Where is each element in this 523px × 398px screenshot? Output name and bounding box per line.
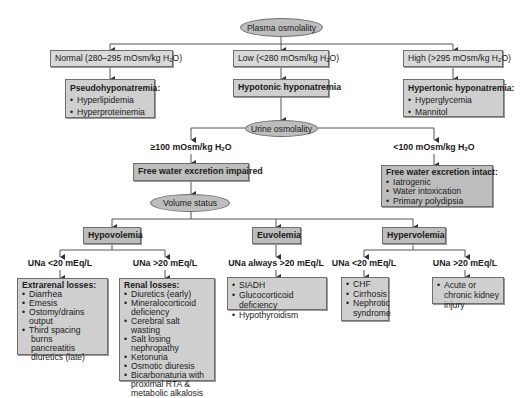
hypervolemia-low-una-box: CHF Cirrhosis Nephrotic syndrome — [341, 277, 389, 321]
extrarenal-losses-box: Extrarenal losses: Diarrhea Emesis Ostom… — [17, 278, 108, 355]
free-water-impaired-box: Free water excretion impaired — [133, 163, 249, 181]
list-item: Salt losing nephropathy — [124, 335, 210, 353]
list-item: Primary polydipsia — [386, 197, 488, 207]
hypertonic-title: Hypertonic hyponatremia: — [408, 82, 499, 94]
list-item: Ostomy/drains output — [22, 308, 103, 326]
list-item: Hyperproteinemia — [70, 106, 150, 118]
list-item: Nephrotic syndrome — [346, 299, 384, 318]
urine-high-label: ≥100 mOsm/kg H2O — [150, 142, 231, 152]
list-item: Cerebral salt wasting — [124, 317, 210, 335]
list-item: Hyperlipidemia — [70, 94, 150, 106]
urine-low-label: <100 mOsm/kg H2O — [393, 142, 474, 152]
list-subitem: diuretics (late) — [31, 353, 103, 362]
hypovolemia-box: Hypovolemia — [83, 227, 141, 244]
normal-osmolality-box: Normal (280–295 mOsm/kg H2O) — [50, 50, 173, 67]
list-item: Glucocorticoid deficiency — [232, 290, 322, 310]
hypovolemia-una-high-label: UNa >20 mEq/L — [133, 258, 197, 268]
hypervolemia-box: Hypervolemia — [382, 227, 446, 244]
urine-osmolality-node: Urine osmolality — [245, 120, 318, 137]
hypovolemia-una-low-label: UNa <20 mEq/L — [28, 258, 92, 268]
euvolemia-causes-box: SIADH Glucocorticoid deficiency Hypothyr… — [227, 277, 327, 310]
list-item: Mineralocorticoid deficiency — [124, 299, 210, 317]
low-osmolality-box: Low (<280 mOsm/kg H2O) — [233, 50, 329, 67]
hypotonic-hyponatremia-box: Hypotonic hyponatremia — [233, 79, 329, 97]
list-item: SIADH — [232, 280, 322, 290]
list-item: Mannitol — [408, 106, 499, 118]
pseudohyponatremia-title: Pseudohyponatremia: — [70, 82, 150, 94]
renal-losses-box: Renal losses: Diuretics (early) Mineralo… — [119, 278, 215, 381]
euvolemia-una-label: UNa always >20 mEq/L — [228, 258, 324, 268]
high-osmolality-box: High (>295 mOsm/kg H2O) — [403, 50, 503, 67]
list-item: Hyperglycemia — [408, 94, 499, 106]
list-item: Hypothyroidism — [232, 310, 322, 320]
pseudohyponatremia-box: Pseudohyponatremia: Hyperlipidemia Hyper… — [65, 79, 155, 118]
hypervolemia-una-low-label: UNa <20 mEq/L — [332, 258, 396, 268]
plasma-osmolality-node: Plasma osmolality — [240, 18, 323, 37]
list-item: Third spacing — [22, 326, 103, 335]
hypertonic-hyponatremia-box: Hypertonic hyponatremia: Hyperglycemia M… — [403, 79, 504, 117]
list-item: Bicarbonaturia with proximal RTA & metab… — [124, 371, 210, 398]
list-item: Acute or chronic kidney injury — [437, 280, 499, 310]
hypervolemia-una-high-label: UNa >20 mEq/L — [433, 258, 497, 268]
euvolemia-box: Euvolemia — [252, 227, 301, 244]
plasma-osmolality-label: Plasma osmolality — [247, 23, 316, 33]
hypervolemia-high-una-box: Acute or chronic kidney injury — [432, 277, 504, 304]
free-water-intact-box: Free water excretion intact: Iatrogenic … — [381, 165, 493, 207]
volume-status-node: Volume status — [150, 194, 230, 212]
